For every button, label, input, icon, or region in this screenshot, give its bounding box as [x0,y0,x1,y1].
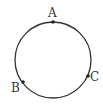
label-c: C [90,70,99,84]
point-b [21,80,25,84]
circle-diagram: A B C [0,0,103,109]
point-a [51,20,55,24]
label-a: A [47,6,57,20]
label-b: B [11,81,20,95]
circle [15,22,91,98]
